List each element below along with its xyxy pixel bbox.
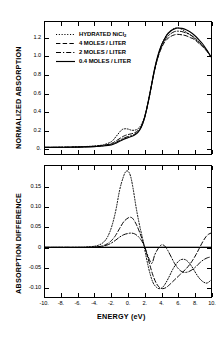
data-series-line bbox=[45, 217, 211, 288]
y-tick-right bbox=[207, 187, 211, 188]
y-tick-right bbox=[207, 207, 211, 208]
x-tick-bottom bbox=[111, 293, 112, 297]
y-tick-left bbox=[45, 94, 49, 95]
legend-item: 4 MOLES / LITER bbox=[56, 40, 152, 48]
y-tick-right bbox=[207, 149, 211, 150]
legend-label: HYDRATED NiCl2 bbox=[79, 32, 126, 38]
x-tick-bottom bbox=[162, 150, 163, 154]
legend-line-sample bbox=[56, 49, 75, 56]
y-tick-left bbox=[45, 288, 49, 289]
data-series-line bbox=[45, 233, 211, 272]
y-tick-right bbox=[207, 75, 211, 76]
y-tick-left bbox=[45, 227, 49, 228]
x-tick-top bbox=[61, 166, 62, 170]
legend-item: 2 MOLES / LITER bbox=[56, 49, 152, 57]
y-tick-right bbox=[207, 112, 211, 113]
legend-label-subscript: 2 bbox=[124, 33, 126, 38]
legend-label: 0.4 MOLES / LITER bbox=[79, 59, 131, 65]
y-tick-right bbox=[207, 288, 211, 289]
y-tick-left bbox=[45, 38, 49, 39]
y-tick-right bbox=[207, 268, 211, 269]
x-tick-top bbox=[94, 22, 95, 26]
y-tick-label: 0.2 bbox=[20, 128, 41, 134]
x-tick-top bbox=[145, 22, 146, 26]
x-tick-top bbox=[78, 22, 79, 26]
x-tick-bottom bbox=[61, 293, 62, 297]
y-tick-label: 0.6 bbox=[20, 91, 41, 97]
y-tick-label: 1.0 bbox=[20, 53, 41, 59]
y-tick-label: 0.05 bbox=[20, 224, 41, 230]
x-tick-bottom bbox=[145, 293, 146, 297]
x-tick-top bbox=[162, 22, 163, 26]
x-tick-bottom bbox=[111, 150, 112, 154]
legend-line-sample bbox=[56, 31, 75, 38]
y-tick-label: -0.05 bbox=[20, 265, 41, 271]
legend-label: 2 MOLES / LITER bbox=[79, 50, 126, 56]
x-tick-top bbox=[128, 22, 129, 26]
x-tick-top bbox=[212, 166, 213, 170]
x-tick-bottom bbox=[94, 150, 95, 154]
legend-line-sample bbox=[56, 40, 75, 47]
y-tick-right bbox=[207, 248, 211, 249]
x-tick-top bbox=[145, 166, 146, 170]
x-tick-top bbox=[44, 166, 45, 170]
y-tick-left bbox=[45, 75, 49, 76]
x-tick-top bbox=[195, 166, 196, 170]
y-tick-left bbox=[45, 268, 49, 269]
y-tick-label: 0.4 bbox=[20, 109, 41, 115]
x-tick-bottom bbox=[145, 150, 146, 154]
x-tick-bottom bbox=[44, 150, 45, 154]
x-tick-top bbox=[78, 166, 79, 170]
y-tick-right bbox=[207, 131, 211, 132]
x-tick-bottom bbox=[44, 293, 45, 297]
x-tick-top bbox=[128, 166, 129, 170]
y-tick-left bbox=[45, 112, 49, 113]
x-tick-bottom bbox=[212, 150, 213, 154]
x-tick-bottom bbox=[128, 150, 129, 154]
x-tick-bottom bbox=[61, 150, 62, 154]
x-tick-bottom bbox=[162, 293, 163, 297]
x-tick-bottom bbox=[78, 293, 79, 297]
y-tick-left bbox=[45, 131, 49, 132]
figure-root: 0.0.20.40.60.81.01.20.150.100.050-0.05-0… bbox=[0, 0, 224, 337]
y-tick-left bbox=[45, 207, 49, 208]
y-tick-label: 1.2 bbox=[20, 35, 41, 41]
x-tick-bottom bbox=[94, 293, 95, 297]
y-axis-title-top: NORMALIZED ABSORPTION bbox=[14, 46, 23, 149]
x-tick-top bbox=[94, 166, 95, 170]
x-tick-top bbox=[195, 22, 196, 26]
y-tick-left bbox=[45, 56, 49, 57]
x-tick-bottom bbox=[178, 293, 179, 297]
y-tick-left bbox=[45, 187, 49, 188]
x-tick-top bbox=[212, 22, 213, 26]
y-tick-right bbox=[207, 38, 211, 39]
y-tick-label: 0.8 bbox=[20, 72, 41, 78]
y-tick-label: -0.10 bbox=[20, 285, 41, 291]
y-tick-right bbox=[207, 94, 211, 95]
y-tick-right bbox=[207, 227, 211, 228]
y-tick-label: 0.15 bbox=[20, 184, 41, 190]
legend-line-sample bbox=[56, 58, 75, 65]
x-tick-top bbox=[178, 22, 179, 26]
x-tick-top bbox=[162, 166, 163, 170]
y-tick-left bbox=[45, 248, 49, 249]
x-tick-bottom bbox=[178, 150, 179, 154]
legend-label: 4 MOLES / LITER bbox=[79, 41, 126, 47]
y-tick-left bbox=[45, 149, 49, 150]
x-tick-bottom bbox=[195, 150, 196, 154]
data-series-line bbox=[45, 171, 211, 289]
x-tick-top bbox=[178, 166, 179, 170]
x-tick-top bbox=[111, 166, 112, 170]
y-tick-right bbox=[207, 56, 211, 57]
legend-item: HYDRATED NiCl2 bbox=[56, 31, 152, 39]
x-tick-top bbox=[111, 22, 112, 26]
x-tick-top bbox=[61, 22, 62, 26]
y-tick-label: 0. bbox=[20, 146, 41, 152]
panel-absorption-difference bbox=[44, 165, 212, 298]
x-tick-label: 10. bbox=[201, 301, 223, 307]
x-tick-top bbox=[44, 22, 45, 26]
plot-area-bottom bbox=[45, 166, 211, 297]
y-tick-label: 0 bbox=[20, 245, 41, 251]
legend: HYDRATED NiCl24 MOLES / LITER2 MOLES / L… bbox=[56, 31, 152, 67]
legend-item: 0.4 MOLES / LITER bbox=[56, 58, 152, 66]
